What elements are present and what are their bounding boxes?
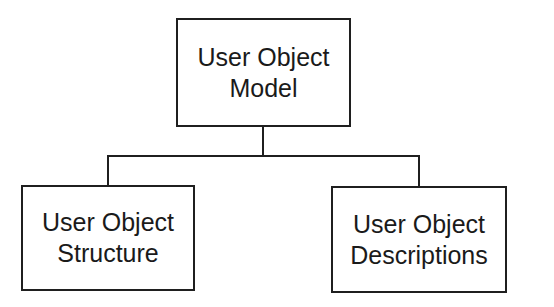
child-node-user-object-structure: User Object Structure [21,185,195,291]
root-node-label-line2: Model [229,73,297,104]
connector-root-down [262,126,264,157]
child-node-label-line1: User Object [353,209,485,240]
child-node-label-line2: Structure [57,238,158,269]
connector-left-down [107,155,109,186]
root-node-user-object-model: User Object Model [176,18,351,127]
connector-horizontal [107,155,420,157]
connector-right-down [418,155,420,187]
root-node-label-line1: User Object [198,42,330,73]
child-node-user-object-descriptions: User Object Descriptions [331,186,507,293]
child-node-label-line1: User Object [42,207,174,238]
child-node-label-line2: Descriptions [350,240,488,271]
